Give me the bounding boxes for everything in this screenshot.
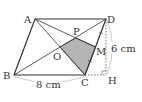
label-m: M [96,46,106,57]
label-p: P [73,26,80,37]
right-angle-marker [102,71,106,75]
label-6cm: 6 cm [111,43,136,54]
geometry-figure: A D B C H O P M 6 cm 8 cm [0,0,142,102]
label-h: H [108,75,117,86]
label-d: D [107,14,115,25]
label-b: B [3,70,10,81]
label-c: C [81,77,89,88]
label-a: A [23,14,32,25]
label-8cm: 8 cm [36,79,61,90]
label-o: O [53,51,61,62]
